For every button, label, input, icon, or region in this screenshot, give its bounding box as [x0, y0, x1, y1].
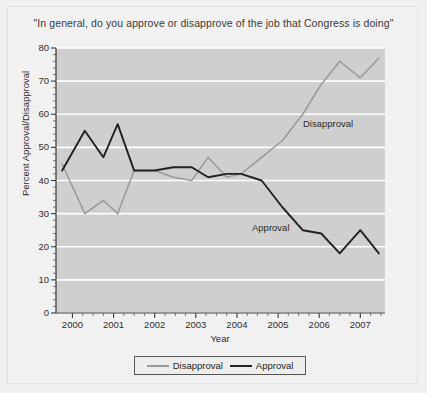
legend-swatch-approval-icon — [230, 365, 252, 367]
y-tick-label: 60 — [27, 108, 49, 119]
y-tick-label: 20 — [27, 241, 49, 252]
x-tick-label: 2007 — [340, 319, 380, 330]
x-axis-label: Year — [55, 333, 385, 344]
series-annotation-disapproval: Disapproval — [303, 118, 353, 129]
y-tick-label: 80 — [27, 42, 49, 53]
legend-label: Approval — [256, 360, 294, 371]
x-tick-label: 2004 — [217, 319, 257, 330]
y-tick-label: 70 — [27, 75, 49, 86]
x-tick-label: 2001 — [94, 319, 134, 330]
y-tick-label: 30 — [27, 208, 49, 219]
y-tick-label: 0 — [27, 307, 49, 318]
x-tick-label: 2002 — [135, 319, 175, 330]
x-tick-label: 2003 — [176, 319, 216, 330]
x-tick-label: 2006 — [299, 319, 339, 330]
x-tick-label: 2000 — [52, 319, 92, 330]
legend-entry-disapproval[interactable]: Disapproval — [147, 360, 223, 371]
x-tick-label: 2005 — [258, 319, 298, 330]
chart-legend: DisapprovalApproval — [134, 356, 306, 375]
series-annotation-approval: Approval — [252, 222, 290, 233]
y-tick-label: 40 — [27, 175, 49, 186]
chart-figure: "In general, do you approve or disapprov… — [0, 0, 427, 393]
legend-label: Disapproval — [173, 360, 223, 371]
y-tick-label: 50 — [27, 141, 49, 152]
y-tick-label: 10 — [27, 274, 49, 285]
legend-entry-approval[interactable]: Approval — [230, 360, 294, 371]
legend-swatch-disapproval-icon — [147, 365, 169, 367]
